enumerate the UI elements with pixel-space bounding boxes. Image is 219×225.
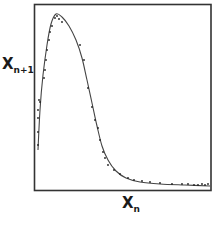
return-map-chart [0,0,219,225]
data-point [51,25,53,27]
data-point [44,69,46,71]
data-point [87,87,89,89]
data-point [159,182,161,184]
data-point [99,139,101,141]
data-point [181,183,183,185]
data-point [171,183,173,185]
data-point [37,131,39,133]
data-point [79,44,81,46]
y-axis-label: Xn+1 [2,57,34,75]
data-point [38,99,40,101]
data-point [58,18,60,20]
plot-frame [35,5,212,191]
data-point [83,59,85,61]
data-points [37,15,209,186]
data-point [102,151,104,153]
data-point [37,109,39,111]
data-point [133,179,135,181]
data-point [61,21,63,23]
data-point [48,39,50,41]
data-point [43,77,45,79]
data-point [37,117,39,119]
data-point [39,101,41,103]
data-point [149,181,151,183]
data-point [94,119,96,121]
data-point [197,184,199,186]
data-point [49,31,51,33]
data-point [54,17,56,19]
data-point [141,180,143,182]
data-point [207,183,209,185]
data-point [127,177,129,179]
data-point [107,164,109,166]
fit-curve [38,14,210,186]
data-point [201,183,203,185]
data-point [56,15,58,17]
data-point [97,127,99,129]
data-point [193,184,195,186]
data-point [113,169,115,171]
data-point [119,173,121,175]
data-point [46,49,48,51]
data-point [104,157,106,159]
data-point [91,106,93,108]
data-point [187,183,189,185]
data-point [45,59,47,61]
data-point [204,184,206,186]
x-axis-label: Xn [122,196,140,214]
data-point [37,144,39,146]
